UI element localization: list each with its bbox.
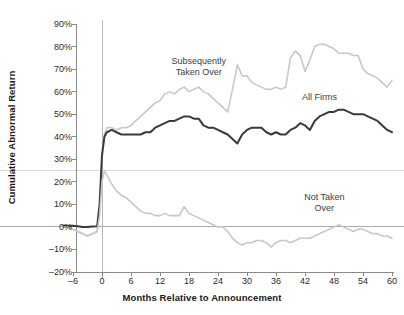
x-tick-label: 30 [242,276,252,286]
x-tick-label: 54 [358,276,368,286]
x-tick-label: 18 [184,276,194,286]
x-tick-label: 12 [155,276,165,286]
x-tick-label: 0 [99,276,104,286]
x-tick-label: 60 [387,276,397,286]
x-tick-label: 42 [300,276,310,286]
chart-figure: Cumulative Abnormal Return –20%–10%0%10%… [0,0,404,315]
plot-area [0,0,404,315]
x-tick-label: –6 [68,276,78,286]
x-axis-title: Months Relative to Announcement [0,292,404,303]
x-tick-label: 48 [329,276,339,286]
annotation-all-firms: All Firms [280,92,360,103]
x-tick-label: 24 [213,276,223,286]
annotation-not-taken-over: Not Taken Over [284,192,364,214]
annotation-subsequently-taken-over: Subsequently Taken Over [159,56,239,78]
x-tick-label: 36 [271,276,281,286]
x-tick-label: 6 [128,276,133,286]
